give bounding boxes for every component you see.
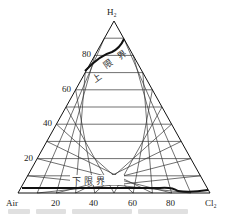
- bottom-tick-20: 20: [51, 198, 61, 208]
- bottom-tick-80: 80: [166, 198, 176, 208]
- left-tick-20: 20: [24, 153, 34, 163]
- figure-caption: [8, 209, 218, 215]
- vertex-cl2: Cl₂: [205, 198, 217, 208]
- left-tick-80: 80: [82, 49, 92, 59]
- lower-limit-label: 下 限 界: [72, 176, 105, 186]
- bottom-tick-60: 60: [128, 198, 138, 208]
- bottom-tick-40: 40: [89, 198, 99, 208]
- upper-limit-label-2: 限: [102, 57, 115, 70]
- grid-lines: [28, 38, 201, 193]
- vertex-h2: H₂: [107, 7, 117, 17]
- left-tick-60: 60: [62, 84, 72, 94]
- upper-limit-label-3: 界: [116, 48, 129, 61]
- vertex-air: Air: [6, 198, 18, 208]
- upper-limit-label-1: 上: [91, 71, 104, 84]
- ternary-diagram: 下 限 界 上 限 界 H₂ Air Cl₂ 20 40 60 80 20 40…: [0, 0, 227, 220]
- left-tick-40: 40: [43, 118, 53, 128]
